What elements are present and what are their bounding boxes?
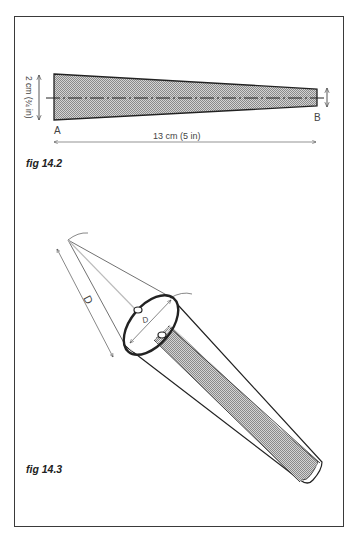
label-end-b: B xyxy=(314,112,321,123)
apex-line-centre xyxy=(68,240,136,310)
caption-fig-14-2: fig 14.2 xyxy=(26,157,62,169)
apex-arc xyxy=(68,233,88,240)
cone-shaded-strip-wide xyxy=(154,325,318,482)
caption-fig-14-3: fig 14.3 xyxy=(26,463,62,475)
label-ring-diameter: D xyxy=(142,315,149,325)
label-length-dimension: 13 cm (5 in) xyxy=(153,131,201,141)
tapered-strip-shape xyxy=(54,74,317,120)
label-width-dimension: 2 cm (¾ in) xyxy=(24,76,34,119)
label-end-a: A xyxy=(54,125,61,136)
ring-tab-bottom xyxy=(158,332,166,338)
label-slant-length: D xyxy=(81,293,95,306)
tapered-strip-figure: A B 13 cm (5 in) 2 cm (¾ in) xyxy=(24,74,327,142)
ring-tab-top xyxy=(134,307,142,313)
cone-figure: D D xyxy=(57,233,322,483)
